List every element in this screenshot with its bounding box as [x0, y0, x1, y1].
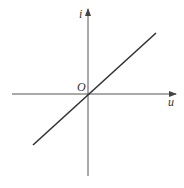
- origin-label: O: [77, 80, 86, 94]
- iv-diagram: i O u: [0, 0, 184, 188]
- i-axis-label: i: [79, 7, 82, 21]
- u-axis-label: u: [168, 95, 174, 109]
- characteristic-line: [33, 33, 156, 145]
